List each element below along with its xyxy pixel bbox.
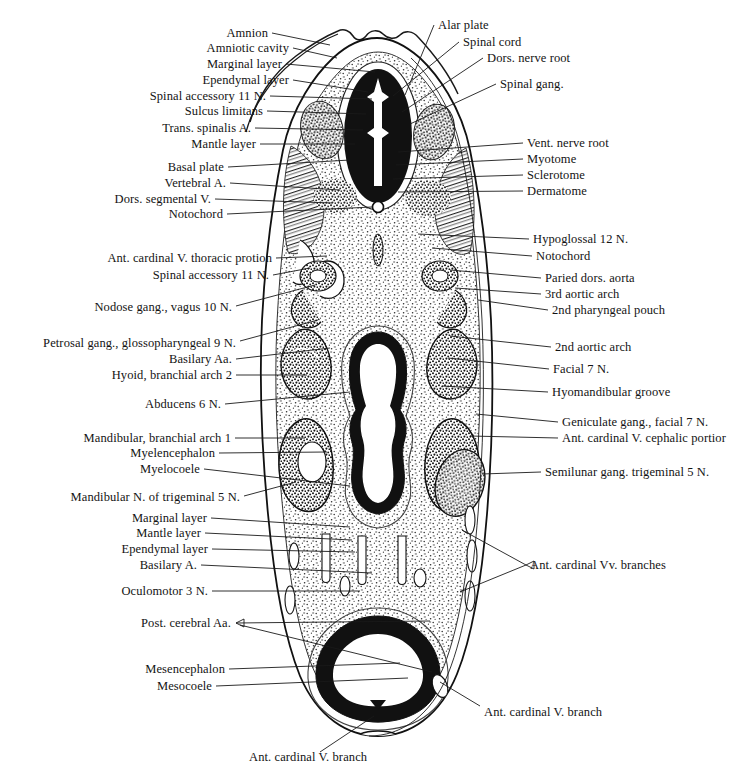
label-notochord-upper: Notochord <box>169 208 223 221</box>
mesenchyme-mass <box>276 52 493 753</box>
diagram-page: Amnion Amniotic cavity Marginal layer Ep… <box>0 0 742 774</box>
label-ant-cardinal-v-cephalic: Ant. cardinal V. cephalic portior <box>562 432 726 445</box>
label-myotome: Myotome <box>527 153 576 166</box>
label-ant-cardinal-v-branch-bottom: Ant. cardinal V. branch <box>249 751 367 764</box>
label-mantle-layer-lower: Mantle layer <box>136 527 201 540</box>
myelencephalon-group <box>342 326 415 528</box>
label-semilunar-gang-trigeminal-5n: Semilunar gang. trigeminal 5 N. <box>545 466 709 479</box>
body-wall-outline <box>261 38 493 736</box>
label-mandibular-branchial-arch-1: Mandibular, branchial arch 1 <box>84 432 231 445</box>
notochord-upper <box>373 202 384 213</box>
label-trans-spinalis-a: Trans. spinalis A. <box>162 122 251 135</box>
vessel-slits <box>285 506 477 614</box>
spinal-ganglion-left <box>295 97 348 162</box>
label-mesocoele: Mesocoele <box>157 680 212 693</box>
semilunar-ganglion <box>428 444 493 523</box>
label-sclerotome: Sclerotome <box>527 169 585 182</box>
label-2nd-aortic-arch: 2nd aortic arch <box>555 341 631 354</box>
mesencephalon-group <box>308 608 448 730</box>
ant-cardinal-v-thoracic <box>293 240 314 284</box>
paired-dorsal-aorta <box>373 234 383 266</box>
branchial-arch-left <box>281 329 331 399</box>
label-mesencephalon: Mesencephalon <box>145 663 225 676</box>
label-mantle-layer-upper: Mantle layer <box>191 138 256 151</box>
label-myelocoele: Myelocoele <box>140 463 200 476</box>
label-ant-cardinal-v-branch-right: Ant. cardinal V. branch <box>484 706 602 719</box>
label-amnion: Amnion <box>226 27 268 40</box>
label-spinal-accessory-11n-lower: Spinal accessory 11 N. <box>153 269 269 282</box>
label-notochord-lower: Notochord <box>536 250 590 263</box>
label-dors-nerve-root: Dors. nerve root <box>487 52 570 65</box>
label-ant-cardinal-v-thoracic: Ant. cardinal V. thoracic protion <box>107 252 272 265</box>
label-nodose-gang-vagus-10n: Nodose gang., vagus 10 N. <box>94 301 232 314</box>
label-mandibular-n-trigeminal-5n: Mandibular N. of trigeminal 5 N. <box>71 491 240 504</box>
label-ant-cardinal-vv-branches: Ant. cardinal Vv. branches <box>530 559 666 572</box>
label-vertebral-a: Vertebral A. <box>164 177 226 190</box>
label-3rd-aortic-arch: 3rd aortic arch <box>545 288 619 301</box>
sclerotome-right <box>405 180 451 216</box>
label-spinal-gang: Spinal gang. <box>500 78 564 91</box>
label-geniculate-gang-facial-7n: Geniculate gang., facial 7 N. <box>562 416 708 429</box>
ant-cardinal-v-branch-lateral <box>429 672 451 699</box>
aortic-arches-left <box>291 261 336 328</box>
label-spinal-cord: Spinal cord <box>463 36 521 49</box>
label-marginal-layer-upper: Marginal layer <box>207 58 282 71</box>
label-spinal-accessory-11n-upper: Spinal accessory 11 N. <box>150 90 266 103</box>
label-facial-7n: Facial 7 N. <box>553 363 609 376</box>
label-alar-plate: Alar plate <box>438 19 489 32</box>
spinal-cord-group <box>337 62 419 210</box>
myotome-blocks <box>283 146 474 254</box>
label-ependymal-layer-upper: Ependymal layer <box>202 74 289 87</box>
label-dermatome: Dermatome <box>527 185 587 198</box>
label-hypoglossal-12n: Hypoglossal 12 N. <box>533 233 628 246</box>
label-basal-plate: Basal plate <box>168 161 224 174</box>
label-marginal-layer-lower: Marginal layer <box>132 512 207 525</box>
aortic-arches-right <box>422 261 467 328</box>
mandibular-arch-right <box>425 419 479 512</box>
label-hyoid-branchial-arch-2: Hyoid, branchial arch 2 <box>112 369 232 382</box>
label-ependymal-layer-lower: Ependymal layer <box>121 543 208 556</box>
label-myelencephalon: Myelencephalon <box>130 447 215 460</box>
label-abducens-6n: Abducens 6 N. <box>145 398 221 411</box>
label-basilary-a: Basilary A. <box>140 559 197 572</box>
label-paried-dors-aorta: Paried dors. aorta <box>545 272 635 285</box>
label-hyomandibular-groove: Hyomandibular groove <box>552 386 670 399</box>
label-basilary-aa: Basilary Aa. <box>169 353 232 366</box>
sclerotome-left <box>313 179 357 213</box>
spinal-ganglion-right <box>409 100 460 163</box>
branchial-arch-right <box>427 329 477 399</box>
label-2nd-pharyngeal-pouch: 2nd pharyngeal pouch <box>552 304 665 317</box>
label-oculomotor-3n: Oculomotor 3 N. <box>121 585 208 598</box>
label-dors-segmental-v: Dors. segmental V. <box>115 193 211 206</box>
label-sulcus-limitans: Sulcus limitans <box>185 105 263 118</box>
mandibular-arch-left <box>279 419 333 512</box>
label-post-cerebral-aa: Post. cerebral Aa. <box>141 617 231 630</box>
label-vent-nerve-root: Vent. nerve root <box>527 137 609 150</box>
label-amniotic-cavity: Amniotic cavity <box>207 42 289 55</box>
label-petrosal-gang-9n: Petrosal gang., glossopharyngeal 9 N. <box>43 337 236 350</box>
